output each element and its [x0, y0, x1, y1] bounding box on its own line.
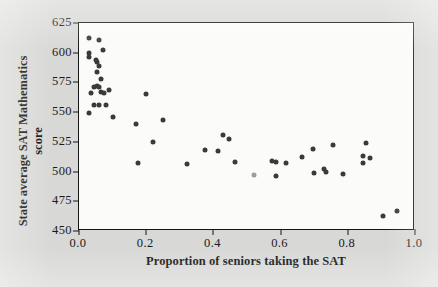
scatter-plot-figure: State average SAT Mathematics score 4504…: [0, 0, 438, 287]
x-tick-label: 0.2: [137, 236, 154, 251]
x-tick-label: 0.8: [338, 236, 355, 251]
x-tick-label: 0.6: [271, 236, 288, 251]
x-tick-label: 0.4: [204, 236, 221, 251]
x-tick-label: 1.0: [406, 236, 423, 251]
x-tick-label: 0.0: [70, 236, 87, 251]
x-axis-title: Proportion of seniors taking the SAT: [78, 254, 414, 269]
x-axis-tick-labels: 0.00.20.40.60.81.0: [0, 0, 438, 287]
